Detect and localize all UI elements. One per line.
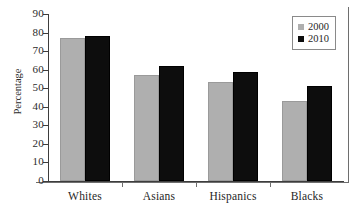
x-axis-separator-tick: [122, 182, 123, 187]
legend-swatch-2000-icon: [298, 24, 304, 30]
bar-blacks-2010: [307, 86, 332, 181]
legend-swatch-2010-icon: [298, 36, 304, 42]
y-axis-line: [48, 14, 49, 182]
figure-frame-bottom-rule: [36, 182, 349, 183]
y-axis-tick-label: 80: [33, 27, 44, 38]
y-axis-tick-label: 50: [33, 82, 44, 93]
x-axis-separator-tick: [270, 182, 271, 187]
bar-hispanics-2010: [233, 72, 258, 181]
bar-chart-figure: Percentage 0102030405060708090 WhitesAsi…: [0, 0, 363, 214]
bar-blacks-2000: [282, 101, 307, 181]
y-axis-tick-label: 60: [33, 64, 44, 75]
y-axis-tick-label: 90: [33, 8, 44, 19]
bar-whites-2010: [85, 36, 110, 181]
bar-hispanics-2000: [208, 82, 233, 181]
x-axis-separator-tick: [196, 182, 197, 187]
x-axis-label-whites: Whites: [48, 190, 122, 202]
y-axis-tick-label: 0: [38, 175, 44, 186]
y-axis-tick-label: 30: [33, 119, 44, 130]
bar-whites-2000: [60, 38, 85, 181]
x-axis-label-hispanics: Hispanics: [196, 190, 270, 202]
figure-frame-right-rule: [348, 7, 349, 183]
legend-item-2000: 2000: [298, 21, 329, 32]
legend-item-2010: 2010: [298, 33, 329, 44]
y-axis-tick-label: 40: [33, 101, 44, 112]
bar-asians-2000: [134, 75, 159, 181]
y-axis-title: Percentage: [12, 47, 23, 137]
legend-label-2000: 2000: [308, 21, 329, 32]
y-axis-tick-label: 10: [33, 156, 44, 167]
y-axis-tick-label: 70: [33, 45, 44, 56]
bar-asians-2010: [159, 66, 184, 181]
x-axis-label-asians: Asians: [122, 190, 196, 202]
x-axis-label-blacks: Blacks: [270, 190, 344, 202]
chart-legend: 2000 2010: [292, 16, 336, 50]
legend-label-2010: 2010: [308, 33, 329, 44]
y-axis-tick-label: 20: [33, 138, 44, 149]
